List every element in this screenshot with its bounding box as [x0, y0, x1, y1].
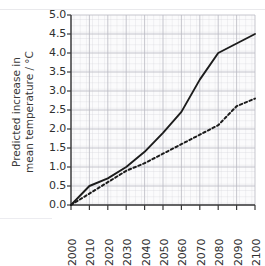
x-tick-label: 2100	[250, 252, 264, 266]
x-tick-label: 2050	[158, 252, 172, 266]
x-tick-label: 2040	[140, 252, 154, 266]
x-tick-label: 2030	[121, 252, 135, 266]
x-tick-label: 2000	[66, 252, 80, 266]
x-tick-label: 2020	[103, 252, 117, 266]
x-tick-label: 2080	[213, 252, 227, 266]
x-tick-label: 2070	[195, 252, 209, 266]
x-tick-label: 2010	[84, 252, 98, 266]
x-tick-label: 2090	[232, 252, 246, 266]
x-tick-label: 2060	[176, 252, 190, 266]
